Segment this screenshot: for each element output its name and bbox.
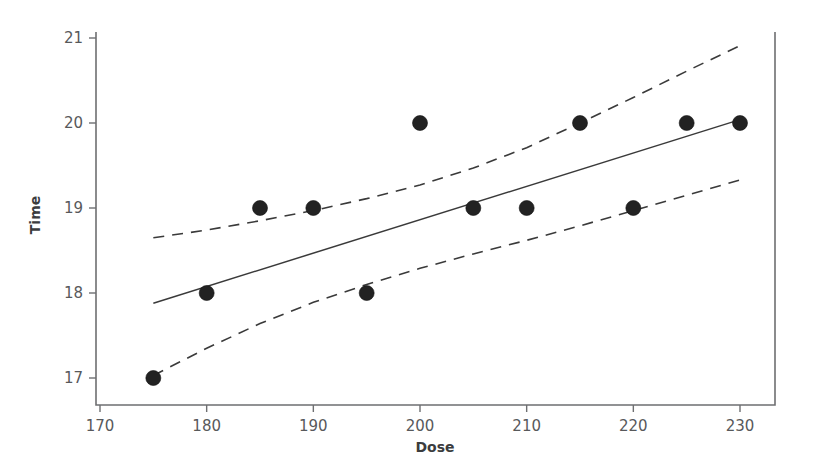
x-tick-label: 230: [726, 417, 755, 435]
chart-background: [0, 0, 813, 465]
y-tick-label: 21: [64, 29, 83, 47]
x-tick-label: 170: [86, 417, 115, 435]
data-point: [413, 116, 428, 131]
scatter-plot-figure: 1718192021 170180190200210220230 Dose Ti…: [0, 0, 813, 465]
x-tick-label: 220: [619, 417, 648, 435]
data-point: [359, 286, 374, 301]
y-axis-label: Time: [27, 196, 43, 234]
data-point: [626, 201, 641, 216]
chart-canvas: 1718192021 170180190200210220230 Dose Ti…: [0, 0, 813, 465]
x-axis-label: Dose: [415, 439, 454, 455]
y-tick-label: 19: [64, 199, 83, 217]
data-point: [466, 201, 481, 216]
x-tick-label: 200: [406, 417, 435, 435]
data-point: [146, 371, 161, 386]
data-point: [253, 201, 268, 216]
data-point: [679, 116, 694, 131]
x-tick-label: 210: [512, 417, 541, 435]
y-tick-label: 20: [64, 114, 83, 132]
x-tick-label: 180: [192, 417, 221, 435]
data-point: [199, 286, 214, 301]
data-point: [306, 201, 321, 216]
data-point: [733, 116, 748, 131]
y-tick-label: 18: [64, 284, 83, 302]
data-point: [573, 116, 588, 131]
y-tick-label: 17: [64, 369, 83, 387]
x-tick-label: 190: [299, 417, 328, 435]
data-point: [519, 201, 534, 216]
